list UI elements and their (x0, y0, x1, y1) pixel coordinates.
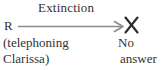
consequence-outcome-line-1: No (118, 36, 134, 49)
extinction-contingency-diagram: Extinction R (telephoning Clarissa) No a… (0, 0, 165, 70)
crossed-out-x-icon (126, 18, 138, 33)
consequence-outcome-line-2: answer (120, 52, 157, 65)
